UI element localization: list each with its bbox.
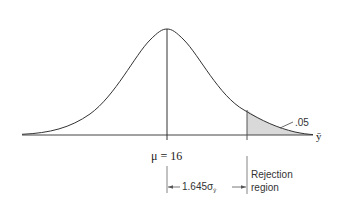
tail-area-pointer: [280, 122, 293, 128]
axis-label: ȳ: [316, 130, 322, 142]
rejection-label-line2: region: [251, 182, 279, 193]
distance-label-main: 1.645σ: [182, 181, 214, 192]
arrowhead-right: [241, 185, 246, 188]
normal-curve-diagram: .05 ȳ μ = 16 1.645σȳ Rejection region: [0, 0, 341, 211]
mean-label: μ = 16: [151, 149, 182, 163]
rejection-label-line1: Rejection: [251, 169, 293, 180]
arrowhead-left: [168, 185, 173, 188]
tail-area-label: .05: [295, 117, 309, 128]
distance-label: 1.645σȳ: [182, 181, 216, 193]
distance-label-subscript: ȳ: [213, 187, 216, 193]
